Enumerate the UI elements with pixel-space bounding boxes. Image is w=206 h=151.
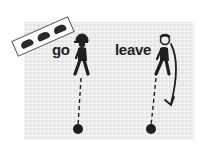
walking-person-cap-icon (74, 34, 88, 74)
dashed-path-leave (151, 78, 156, 126)
diagram-drawing (0, 0, 206, 151)
dot-leave (146, 124, 156, 134)
dashed-path-go (78, 78, 81, 126)
dot-go (73, 124, 83, 134)
walking-person-looking-back-icon (156, 35, 170, 74)
